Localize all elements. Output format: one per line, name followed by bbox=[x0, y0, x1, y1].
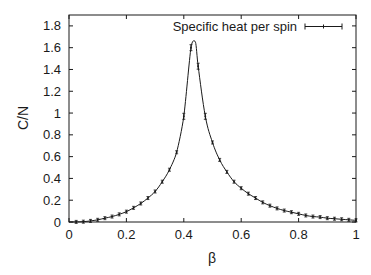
y-tick-label: 1.8 bbox=[43, 18, 61, 33]
y-tick-label: 0.8 bbox=[43, 127, 61, 142]
x-tick-label: 1 bbox=[352, 227, 359, 242]
point-marker bbox=[276, 207, 278, 209]
point-marker bbox=[348, 219, 350, 221]
point-marker bbox=[204, 115, 206, 117]
point-marker bbox=[341, 218, 343, 220]
point-marker bbox=[82, 221, 84, 223]
point-marker bbox=[118, 213, 120, 215]
point-marker bbox=[133, 207, 135, 209]
point-marker bbox=[75, 221, 77, 223]
data-point bbox=[189, 45, 192, 51]
point-marker bbox=[97, 219, 99, 221]
point-marker bbox=[190, 47, 192, 49]
plot-frame bbox=[69, 15, 356, 222]
point-marker bbox=[319, 216, 321, 218]
x-tick-label: 0.2 bbox=[117, 227, 135, 242]
y-tick-label: 0.4 bbox=[43, 171, 61, 186]
y-tick-label: 1.2 bbox=[43, 84, 61, 99]
point-marker bbox=[111, 216, 113, 218]
point-marker bbox=[291, 211, 293, 213]
point-marker bbox=[312, 216, 314, 218]
data-point bbox=[211, 141, 214, 144]
x-axis-label: β bbox=[208, 250, 216, 266]
x-tick-label: 0 bbox=[65, 227, 72, 242]
y-tick-label: 1.4 bbox=[43, 62, 61, 77]
point-marker bbox=[305, 215, 307, 217]
point-marker bbox=[169, 169, 171, 171]
x-tick-label: 0.4 bbox=[175, 227, 193, 242]
y-tick-label: 0.6 bbox=[43, 149, 61, 164]
point-marker bbox=[126, 211, 128, 213]
point-marker bbox=[161, 181, 163, 183]
point-marker bbox=[247, 193, 249, 195]
point-marker bbox=[147, 197, 149, 199]
point-marker bbox=[140, 203, 142, 205]
point-marker bbox=[262, 201, 264, 203]
point-marker bbox=[240, 187, 242, 189]
data-point bbox=[182, 113, 185, 119]
point-marker bbox=[298, 213, 300, 215]
point-marker bbox=[183, 115, 185, 117]
point-marker bbox=[90, 220, 92, 222]
point-marker bbox=[104, 217, 106, 219]
point-marker bbox=[326, 217, 328, 219]
y-axis-label: C/N bbox=[15, 106, 31, 130]
point-marker bbox=[226, 171, 228, 173]
point-marker bbox=[269, 205, 271, 207]
y-tick-label: 0.2 bbox=[43, 193, 61, 208]
data-point bbox=[204, 113, 207, 119]
point-marker bbox=[154, 191, 156, 193]
point-marker bbox=[255, 197, 257, 199]
legend-label: Specific heat per spin bbox=[173, 19, 297, 34]
x-tick-label: 0.8 bbox=[290, 227, 308, 242]
point-marker bbox=[176, 151, 178, 153]
point-marker bbox=[355, 219, 357, 221]
legend: Specific heat per spin bbox=[173, 19, 342, 34]
data-point bbox=[175, 151, 178, 154]
point-marker bbox=[334, 218, 336, 220]
data-point bbox=[197, 63, 200, 69]
point-marker bbox=[283, 210, 285, 212]
x-tick-label: 0.6 bbox=[232, 227, 250, 242]
y-tick-label: 1 bbox=[54, 106, 61, 121]
point-marker bbox=[197, 65, 199, 67]
point-marker bbox=[212, 142, 214, 144]
specific-heat-chart: 00.20.40.60.8100.20.40.60.811.21.41.61.8… bbox=[0, 0, 371, 275]
y-tick-label: 1.6 bbox=[43, 40, 61, 55]
y-tick-label: 0 bbox=[54, 215, 61, 230]
specific-heat-curve bbox=[69, 41, 356, 222]
point-marker bbox=[219, 159, 221, 161]
point-marker bbox=[233, 181, 235, 183]
